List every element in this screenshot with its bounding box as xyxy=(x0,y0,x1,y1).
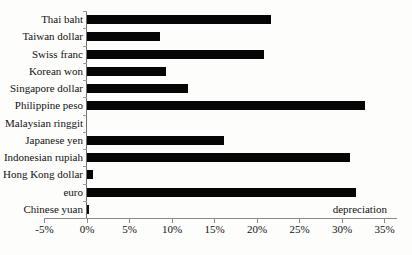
y-tick-mark xyxy=(83,115,87,116)
bar-korean-won xyxy=(87,67,166,76)
bar-row xyxy=(87,132,398,149)
x-tick-label: 35% xyxy=(374,223,394,235)
bar-philippine-peso xyxy=(87,101,365,110)
bar-taiwan-dollar xyxy=(87,32,160,41)
y-tick-mark xyxy=(83,166,87,167)
bar-row xyxy=(87,80,398,97)
category-label-thai-baht: Thai baht xyxy=(0,11,83,28)
category-label-singapore-dollar: Singapore dollar xyxy=(0,80,83,97)
y-tick-mark xyxy=(83,201,87,202)
plot-area xyxy=(87,11,398,218)
category-axis-labels: Thai bahtTaiwan dollarSwiss francKorean … xyxy=(0,11,83,218)
bar-thai-baht xyxy=(87,15,271,24)
category-label-chinese-yuan: Chinese yuan xyxy=(0,201,83,218)
bar-singapore-dollar xyxy=(87,84,188,93)
y-tick-mark xyxy=(83,132,87,133)
bar-row xyxy=(87,149,398,166)
bar-row xyxy=(87,184,398,201)
x-tick-label: 15% xyxy=(204,223,224,235)
y-tick-mark xyxy=(83,184,87,185)
category-label-swiss-franc: Swiss franc xyxy=(0,46,83,63)
y-tick-mark xyxy=(83,80,87,81)
y-tick-mark xyxy=(83,97,87,98)
x-tick-label: -5% xyxy=(35,223,53,235)
bar-row xyxy=(87,97,398,114)
bar-chinese-yuan xyxy=(87,205,89,214)
x-tick-label: 20% xyxy=(247,223,267,235)
bar-swiss-franc xyxy=(87,50,264,59)
bar-indonesian-rupiah xyxy=(87,153,350,162)
category-label-indonesian-rupiah: Indonesian rupiah xyxy=(0,149,83,166)
bar-row xyxy=(87,115,398,132)
category-label-korean-won: Korean won xyxy=(0,63,83,80)
x-tick-label: 25% xyxy=(289,223,309,235)
bar-row xyxy=(87,28,398,45)
y-tick-mark xyxy=(83,11,87,12)
y-tick-mark xyxy=(83,218,87,219)
bar-row xyxy=(87,166,398,183)
bar-hong-kong-dollar xyxy=(87,170,93,179)
y-tick-mark xyxy=(83,149,87,150)
category-label-philippine-peso: Philippine peso xyxy=(0,97,83,114)
bar-row xyxy=(87,46,398,63)
x-tick-label: 5% xyxy=(122,223,137,235)
category-label-taiwan-dollar: Taiwan dollar xyxy=(0,28,83,45)
category-label-malaysian-ringgit: Malaysian ringgit xyxy=(0,115,83,132)
category-label-japanese-yen: Japanese yen xyxy=(0,132,83,149)
value-axis-line xyxy=(44,218,397,219)
x-tick-label: 30% xyxy=(332,223,352,235)
bar-euro xyxy=(87,188,356,197)
bar-japanese-yen xyxy=(87,136,224,145)
bar-row xyxy=(87,11,398,28)
y-tick-mark xyxy=(83,63,87,64)
x-tick-label: 0% xyxy=(80,223,95,235)
bar-row xyxy=(87,63,398,80)
x-tick-label: 10% xyxy=(162,223,182,235)
value-axis-title: depreciation xyxy=(333,203,387,215)
y-tick-mark xyxy=(83,28,87,29)
category-label-hong-kong-dollar: Hong Kong dollar xyxy=(0,166,83,183)
category-label-euro: euro xyxy=(0,184,83,201)
currency-depreciation-bar-chart: Thai bahtTaiwan dollarSwiss francKorean … xyxy=(0,0,412,255)
y-tick-mark xyxy=(83,46,87,47)
